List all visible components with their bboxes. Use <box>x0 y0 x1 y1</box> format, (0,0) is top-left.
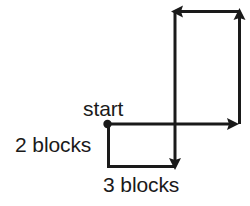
horizontal-distance-label: 3 blocks <box>103 174 179 195</box>
vertical-distance-label: 2 blocks <box>15 134 91 155</box>
diagram-canvas: start 2 blocks 3 blocks <box>0 0 250 206</box>
start-label: start <box>83 98 123 119</box>
start-point-dot <box>103 120 111 128</box>
